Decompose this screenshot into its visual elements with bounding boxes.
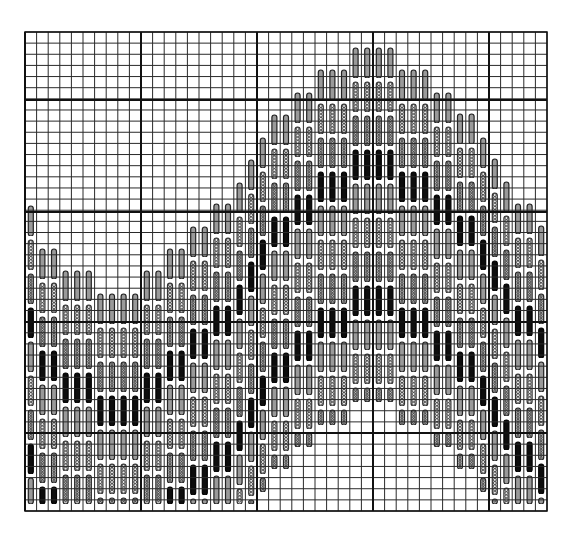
stitch-gap	[515, 438, 522, 441]
stitch-solid	[527, 442, 532, 472]
stitch-gap	[329, 338, 336, 341]
stitch-gap	[51, 504, 58, 507]
stitch-gap	[85, 437, 92, 440]
stitch-column	[155, 271, 162, 507]
stitch-plain-outline	[504, 454, 509, 484]
stitch-column	[364, 48, 371, 405]
stitch-gap	[178, 504, 185, 507]
stitch-gap	[294, 293, 301, 296]
stitch-gap	[259, 338, 266, 341]
stitch-gap	[120, 494, 127, 497]
stitch-gap	[306, 225, 313, 228]
stitch-ribbed	[295, 433, 300, 447]
stitch-gap	[457, 280, 464, 283]
stitch-plain-outline	[63, 271, 68, 301]
stitch-gap	[364, 214, 371, 217]
stitch-gap	[422, 270, 429, 273]
stitch-gap	[410, 202, 417, 205]
stitch-gap	[457, 416, 464, 419]
stitch-gap	[236, 485, 243, 488]
stitch-gap	[480, 492, 487, 495]
stitch-gap	[433, 361, 440, 364]
stitch-ribbed	[516, 272, 521, 302]
stitch-gap	[329, 202, 336, 205]
stitch-ribbed	[342, 410, 347, 425]
stitch-gap	[422, 372, 429, 375]
stitch-gap	[155, 437, 162, 440]
stitch-gap	[271, 179, 278, 182]
stitch-column	[120, 294, 127, 507]
stitch-gap	[433, 429, 440, 432]
stitch-gap	[27, 504, 34, 507]
stitch-solid	[249, 398, 254, 428]
stitch-plain-outline	[504, 182, 509, 212]
stitch-gap	[143, 471, 150, 474]
stitch-plain-outline	[411, 342, 416, 372]
stitch-gap	[375, 282, 382, 285]
stitch-plain-outline	[492, 159, 497, 189]
stitch-gap	[538, 324, 545, 327]
stitch-gap	[457, 450, 464, 453]
stitch-gap	[178, 483, 185, 486]
stitch-gap	[62, 403, 69, 406]
stitch-gap	[51, 449, 58, 452]
stitch-gap	[387, 146, 394, 149]
stitch-solid	[295, 331, 300, 361]
stitch-gap	[201, 504, 208, 507]
stitch-gap	[480, 338, 487, 341]
stitch-gap	[271, 417, 278, 420]
stitch-gap	[51, 279, 58, 282]
stitch-gap	[538, 494, 545, 497]
stitch-column	[259, 138, 266, 495]
stitch-gap	[317, 372, 324, 375]
stitch-plain-outline	[365, 48, 370, 78]
stitch-gap	[248, 360, 255, 363]
stitch-gap	[410, 372, 417, 375]
stitch-plain-outline	[434, 93, 439, 123]
stitch-gap	[375, 146, 382, 149]
stitch-solid	[272, 353, 277, 383]
stitch-gap	[491, 291, 498, 294]
stitch-gap	[74, 301, 81, 304]
stitch-gap	[201, 257, 208, 260]
stitch-gap	[201, 427, 208, 430]
stitch-gap	[352, 316, 359, 319]
stitch-gap	[445, 395, 452, 398]
stitch-gap	[155, 335, 162, 338]
stitch-column	[109, 294, 116, 507]
stitch-gap	[503, 382, 510, 385]
stitch-ribbed	[330, 410, 335, 425]
stitch-gap	[271, 315, 278, 318]
stitch-column	[445, 93, 452, 450]
stitch-plain-outline	[272, 115, 277, 145]
stitch-gap	[259, 406, 266, 409]
stitch-gap	[352, 78, 359, 81]
stitch-gap	[178, 279, 185, 282]
stitch-gap	[317, 168, 324, 171]
stitch-gap	[97, 358, 104, 361]
stitch-gap	[120, 392, 127, 395]
stitch-gap	[248, 428, 255, 431]
stitch-gap	[329, 270, 336, 273]
stitch-gap	[201, 495, 208, 498]
stitch-gap	[503, 246, 510, 249]
stitch-gap	[503, 416, 510, 419]
stitch-gap	[120, 358, 127, 361]
stitch-gap	[120, 504, 127, 507]
stitch-gap	[352, 350, 359, 353]
stitch-gap	[143, 504, 150, 507]
stitch-gap	[364, 316, 371, 319]
stitch-ribbed	[237, 387, 242, 417]
stitch-gap	[271, 247, 278, 250]
stitch-gap	[387, 214, 394, 217]
stitch-gap	[167, 483, 174, 486]
stitch-gap	[190, 393, 197, 396]
stitch-gap	[341, 425, 348, 428]
stitch-gap	[225, 472, 232, 475]
stitch-gap	[491, 461, 498, 464]
stitch-gap	[236, 213, 243, 216]
stitch-gap	[457, 178, 464, 181]
stitch-solid	[434, 331, 439, 361]
stitch-gap	[27, 406, 34, 409]
stitch-gap	[62, 369, 69, 372]
